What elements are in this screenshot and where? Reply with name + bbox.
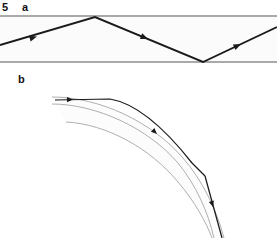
curved-slab-fill-b: [52, 97, 224, 238]
ray-diagram-svg: [0, 0, 277, 238]
panel-b-group: [52, 97, 224, 238]
panel-label-a: a: [22, 1, 28, 13]
panel-label-b: b: [18, 73, 25, 85]
figure-container: 5 a b: [0, 0, 277, 238]
slab-fill-a: [0, 16, 277, 62]
figure-number: 5: [2, 1, 8, 13]
panel-a-group: [0, 16, 277, 62]
